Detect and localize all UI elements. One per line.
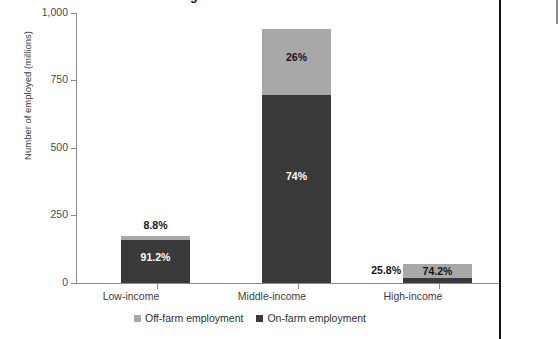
- y-tick-mark-0: [71, 283, 76, 284]
- bar-segment-on-farm[interactable]: [403, 278, 472, 283]
- page-edge-divider: [499, 0, 501, 339]
- y-tick-mark-250: [71, 215, 76, 216]
- bar-label-on-farm-low-income: 91.2%: [121, 251, 190, 263]
- plot-area: 1,000 750 500 250 0 8.8% 91.2% 26% 74%: [76, 13, 500, 284]
- bar-label-on-farm-high-income: 25.8%: [341, 264, 401, 276]
- x-tick-mark-1: [157, 284, 158, 289]
- bar-label-off-farm-middle-income: 26%: [262, 51, 331, 63]
- x-tick-label-high-income: High-income: [353, 290, 473, 302]
- y-tick-label-750: 750: [8, 73, 68, 85]
- x-axis-line: [76, 283, 500, 284]
- chart-page: Workers Working on Farms Number of emplo…: [0, 0, 558, 339]
- y-tick-mark-500: [71, 148, 76, 149]
- bar-label-off-farm-high-income: 74.2%: [403, 265, 472, 277]
- y-tick-label-group: 1,000 750 500 250 0: [6, 13, 68, 284]
- bar-label-on-farm-middle-income: 74%: [262, 170, 331, 182]
- legend-item-off-farm[interactable]: Off-farm employment: [134, 312, 243, 324]
- legend-swatch-icon-off-farm: [134, 315, 141, 322]
- bar-label-off-farm-low-income: 8.8%: [121, 219, 190, 231]
- x-tick-label-low-income: Low-income: [71, 290, 191, 302]
- legend-label-off-farm: Off-farm employment: [145, 312, 243, 324]
- x-tick-mark-3: [439, 284, 440, 289]
- y-tick-mark-750: [71, 80, 76, 81]
- bar-group-high-income[interactable]: 74.2% 25.8%: [403, 264, 472, 283]
- y-tick-mark-1000: [71, 13, 76, 14]
- y-tick-label-500: 500: [8, 141, 68, 153]
- bar-group-middle-income[interactable]: 26% 74%: [262, 29, 331, 283]
- page-title: Workers Working on Farms: [96, 0, 396, 3]
- legend-item-on-farm[interactable]: On-farm employment: [256, 312, 366, 324]
- y-tick-label-0: 0: [8, 276, 68, 288]
- x-tick-mark-2: [298, 284, 299, 289]
- y-axis-line: [76, 13, 77, 284]
- legend-swatch-icon-on-farm: [256, 315, 263, 322]
- y-tick-label-250: 250: [8, 208, 68, 220]
- x-tick-label-middle-income: Middle-income: [212, 290, 332, 302]
- bar-segment-on-farm[interactable]: [262, 95, 331, 283]
- legend: Off-farm employment On-farm employment: [0, 312, 500, 324]
- legend-label-on-farm: On-farm employment: [267, 312, 366, 324]
- y-tick-label-1000: 1,000: [8, 6, 68, 18]
- bar-group-low-income[interactable]: 8.8% 91.2%: [121, 236, 190, 283]
